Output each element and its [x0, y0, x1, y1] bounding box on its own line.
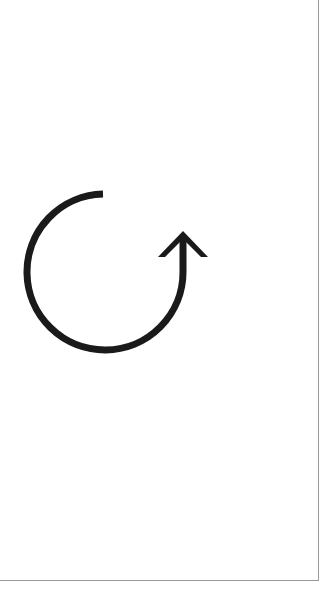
canvas-panel: Rotate: [0, 0, 319, 581]
rotate-clockwise-icon[interactable]: [0, 0, 318, 580]
